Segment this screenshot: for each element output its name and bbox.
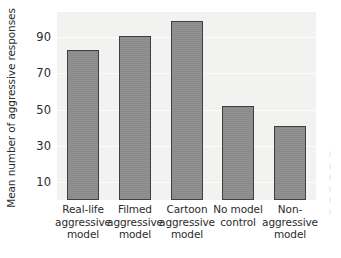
y-axis-title-container: Mean number of aggressive responses	[0, 0, 22, 215]
bar-chart-figure: Mean number of aggressive responses 1030…	[0, 0, 341, 258]
margin-caption-line: l	[329, 162, 341, 174]
x-axis-tick-label: Filmedaggressivemodel	[106, 203, 164, 241]
margin-caption-clipped: llllll	[329, 150, 341, 230]
x-axis-tick-label-line: Real-life	[54, 203, 112, 216]
margin-caption-line: l	[329, 150, 341, 162]
y-axis-tick-labels: 1030507090	[22, 0, 55, 215]
x-axis-tick-label-line: model	[158, 228, 216, 241]
x-axis-tick-label-line: aggressive	[261, 216, 319, 229]
plot-area	[57, 12, 316, 200]
y-axis-tick-label: 90	[36, 30, 51, 44]
bar-texture	[68, 51, 98, 199]
y-axis-title: Mean number of aggressive responses	[5, 8, 17, 208]
y-axis-tick-label: 70	[36, 66, 51, 80]
bar-texture	[172, 22, 202, 199]
x-axis-tick-label-line: model	[261, 228, 319, 241]
x-axis-tick-labels: Real-lifeaggressivemodelFilmedaggressive…	[57, 203, 316, 253]
bar	[222, 106, 254, 200]
y-axis-tick-label: 50	[36, 103, 51, 117]
margin-caption-line: l	[329, 196, 341, 208]
bar-texture	[120, 37, 150, 200]
x-axis-tick-label: Cartoonaggressivemodel	[158, 203, 216, 241]
margin-caption-line: l	[329, 185, 341, 197]
x-axis-tick-label-line: aggressive	[158, 216, 216, 229]
x-axis-tick-label-line: Non-	[261, 203, 319, 216]
x-axis-tick-label: Non-aggressivemodel	[261, 203, 319, 241]
bar	[171, 21, 203, 200]
x-axis-tick-label-line: aggressive	[106, 216, 164, 229]
margin-caption-line: l	[329, 173, 341, 185]
bar	[67, 50, 99, 200]
x-axis-tick-label-line: model	[106, 228, 164, 241]
x-axis-tick-label-line: Cartoon	[158, 203, 216, 216]
x-axis-tick-label: Real-lifeaggressivemodel	[54, 203, 112, 241]
bar-texture	[275, 127, 305, 199]
y-axis-tick-label: 30	[36, 139, 51, 153]
margin-caption-line: l	[329, 208, 341, 220]
x-axis-tick-label-line: aggressive	[54, 216, 112, 229]
bar-texture	[223, 107, 253, 199]
x-axis-tick-label-line: No model	[209, 203, 267, 216]
x-axis-tick-label-line: model	[54, 228, 112, 241]
bar-series	[57, 12, 316, 200]
x-axis-tick-label-line: control	[209, 216, 267, 229]
x-axis-tick-label: No modelcontrol	[209, 203, 267, 228]
y-axis-tick-label: 10	[36, 175, 51, 189]
x-axis-tick-label-line: Filmed	[106, 203, 164, 216]
bar	[274, 126, 306, 200]
bar	[119, 36, 151, 201]
